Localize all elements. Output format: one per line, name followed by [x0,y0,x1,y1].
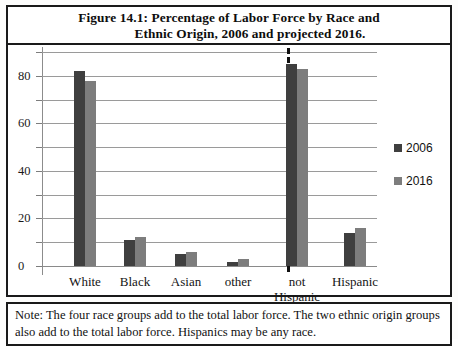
bar-asian-2006 [175,254,186,266]
figure-note-text: Note: The four race groups add to the to… [8,304,450,341]
figure-title: Figure 14.1: Percentage of Labor Force b… [8,7,450,45]
bar-asian-2016 [186,252,197,266]
bar-black-2016 [135,237,146,266]
legend-swatch-icon-2016 [394,177,402,185]
legend-item-2006: 2006 [394,141,454,155]
chart-legend: 2006 2016 [394,141,454,207]
figure-title-line-2: Ethnic Origin, 2006 and projected 2016. [93,26,366,42]
y-axis-label-60: 60 [18,116,30,131]
bar-not-hispanic-2006 [286,64,297,266]
y-axis-label-0: 0 [18,259,30,274]
category-label-not-hispanic-line1: not [289,274,306,289]
legend-swatch-icon-2006 [394,144,402,152]
category-label-hispanic: Hispanic [332,274,378,289]
y-axis-label-20: 20 [18,211,30,226]
y-axis-label-80: 80 [18,68,30,83]
bar-other-2016 [238,259,249,266]
y-tick-0 [36,266,42,267]
legend-label-2006: 2006 [406,141,433,155]
gridline-0 [42,266,377,267]
legend-label-2016: 2016 [406,174,433,188]
category-label-asian: Asian [171,274,201,289]
bars-layer [42,52,377,266]
figure-title-line-1: Figure 14.1: Percentage of Labor Force b… [78,10,379,26]
bar-black-2006 [124,240,135,266]
bar-not-hispanic-2016 [297,69,308,266]
legend-item-2016: 2016 [394,174,454,188]
chart-plot-area: 020406080 White Black Asian other not Hi… [8,45,450,295]
figure-note-box: Note: The four race groups add to the to… [6,302,452,346]
category-label-black: Black [120,274,150,289]
category-label-white: White [69,274,101,289]
category-label-other: other [225,274,252,289]
bar-other-2006 [227,262,238,266]
bar-hispanic-2016 [355,228,366,266]
bar-white-2016 [85,81,96,266]
bar-white-2006 [74,71,85,266]
y-axis-label-40: 40 [18,163,30,178]
figure-frame: Figure 14.1: Percentage of Labor Force b… [6,5,452,297]
bar-hispanic-2006 [344,233,355,266]
